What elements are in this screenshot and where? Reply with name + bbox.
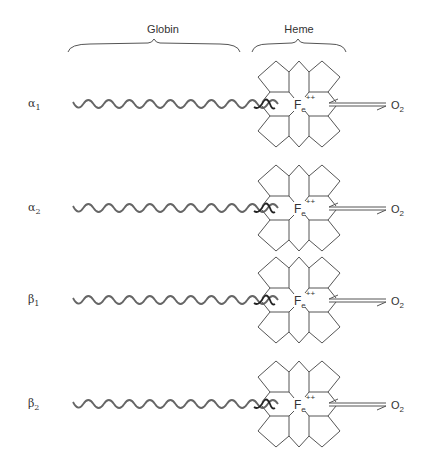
pyrrole-ring (309, 61, 340, 92)
pyrrole-ring (258, 257, 289, 288)
equilibrium-arrow (329, 99, 386, 110)
methine-bridge (262, 302, 270, 312)
pyrrole-ring (309, 416, 340, 447)
methine-bridge (289, 332, 309, 343)
equilibrium-arrow (329, 399, 386, 410)
subunit-label: β1 (28, 293, 39, 308)
pyrrole-ring (309, 116, 340, 147)
pyrrole-ring (258, 312, 289, 343)
methine-bridge (289, 61, 309, 72)
pyrrole-ring (309, 165, 340, 196)
oxygen-label: O2 (391, 99, 405, 114)
iron-label: Fe++ (294, 393, 315, 414)
methine-bridge (289, 436, 309, 447)
methine-bridge (289, 165, 309, 176)
pyrrole-ring (258, 361, 289, 392)
pyrrole-ring (309, 257, 340, 288)
pyrrole-ring (258, 61, 289, 92)
iron-label: Fe++ (294, 93, 315, 114)
oxygen-label: O2 (391, 399, 405, 414)
pyrrole-ring (258, 416, 289, 447)
header-group: Globin Heme (68, 23, 346, 52)
globin-chain-wave (73, 400, 278, 408)
equilibrium-arrow (329, 203, 386, 214)
subunit-row-3: β1Fe++O2 (28, 257, 405, 343)
hemoglobin-diagram: Globin Heme α1Fe++O2α2Fe++O2β1Fe++O2β2Fe… (0, 0, 425, 464)
pyrrole-ring (309, 312, 340, 343)
methine-bridge (289, 257, 309, 268)
globin-chain-wave (73, 296, 278, 304)
methine-bridge (262, 210, 270, 220)
oxygen-label: O2 (391, 203, 405, 218)
methine-bridge (289, 240, 309, 251)
subunit-label: α1 (28, 97, 41, 112)
methine-bridge (328, 106, 336, 116)
methine-bridge (289, 361, 309, 372)
globin-chain-wave (73, 100, 278, 108)
iron-label: Fe++ (294, 197, 315, 218)
pyrrole-ring (258, 165, 289, 196)
subunit-label: β2 (28, 397, 39, 412)
methine-bridge (328, 302, 336, 312)
methine-bridge (289, 136, 309, 147)
globin-header: Globin (147, 23, 179, 35)
heme-header: Heme (284, 23, 313, 35)
globin-brace (68, 39, 240, 52)
pyrrole-ring (258, 220, 289, 251)
oxygen-label: O2 (391, 295, 405, 310)
methine-bridge (262, 106, 270, 116)
subunit-row-1: α1Fe++O2 (28, 61, 405, 147)
subunit-label: α2 (28, 201, 41, 216)
subunit-row-2: α2Fe++O2 (28, 165, 405, 251)
methine-bridge (328, 210, 336, 220)
heme-brace (252, 39, 346, 52)
globin-chain-wave (73, 204, 278, 212)
methine-bridge (262, 406, 270, 416)
methine-bridge (328, 406, 336, 416)
pyrrole-ring (258, 116, 289, 147)
pyrrole-ring (309, 361, 340, 392)
pyrrole-ring (309, 220, 340, 251)
subunit-row-4: β2Fe++O2 (28, 361, 405, 447)
iron-label: Fe++ (294, 289, 315, 310)
equilibrium-arrow (329, 295, 386, 306)
